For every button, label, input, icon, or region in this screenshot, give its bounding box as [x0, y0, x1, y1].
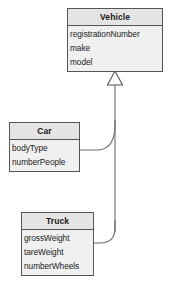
uml-attribute: numberWheels	[24, 259, 93, 273]
uml-attribute: tareWeight	[24, 245, 93, 259]
uml-class-name-car: Car	[10, 123, 79, 140]
uml-attribute: grossWeight	[24, 231, 93, 245]
uml-attribute: make	[70, 41, 162, 55]
uml-attribute: bodyType	[12, 141, 79, 155]
generalization-line-truck	[94, 220, 115, 243]
uml-class-name-vehicle: Vehicle	[68, 9, 162, 26]
uml-class-car[interactable]: Car bodyType numberPeople	[9, 122, 80, 172]
uml-attribute: numberPeople	[12, 155, 79, 169]
uml-class-vehicle[interactable]: Vehicle registrationNumber make model	[67, 8, 163, 72]
uml-class-name-truck: Truck	[22, 213, 93, 230]
uml-attribute: registrationNumber	[70, 27, 162, 41]
hollow-triangle-arrowhead-icon	[108, 71, 123, 85]
uml-attributes-car: bodyType numberPeople	[10, 140, 79, 171]
uml-attribute: model	[70, 55, 162, 69]
generalization-line-car	[80, 120, 115, 150]
uml-attributes-vehicle: registrationNumber make model	[68, 26, 162, 71]
uml-class-truck[interactable]: Truck grossWeight tareWeight numberWheel…	[21, 212, 94, 276]
diagram-canvas: Vehicle registrationNumber make model Ca…	[0, 0, 170, 285]
uml-attributes-truck: grossWeight tareWeight numberWheels	[22, 230, 93, 275]
